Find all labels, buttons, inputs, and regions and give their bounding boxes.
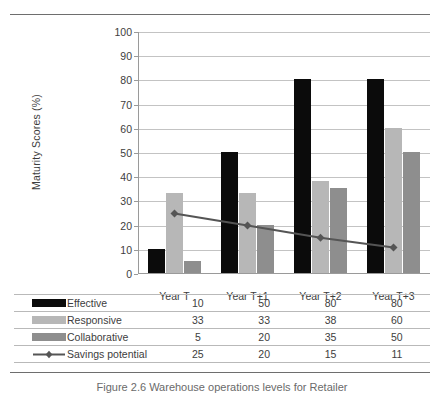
table-cell-value: 20: [231, 329, 297, 346]
table-cell-value: 11: [364, 346, 430, 363]
legend-cell: Collaborative: [14, 329, 165, 346]
line-marker-savings-potential: [244, 222, 252, 230]
legend-label: Effective: [67, 298, 107, 310]
figure-caption: Figure 2.6 Warehouse operations levels f…: [0, 381, 444, 393]
y-axis-tick-label: 0: [126, 268, 132, 280]
y-axis-tick-label: 100: [114, 26, 132, 38]
line-marker-savings-potential: [317, 234, 325, 242]
legend-cell: Responsive: [14, 312, 165, 329]
table-row: Savings potential25201511: [14, 346, 430, 363]
table-cell-value: 38: [297, 312, 363, 329]
y-axis-tick-label: 90: [120, 50, 132, 62]
y-axis-tick-label: 20: [120, 220, 132, 232]
table-cell-value: 80: [364, 295, 430, 312]
table-cell-value: 60: [364, 312, 430, 329]
table-row: Effective10508080: [14, 295, 430, 312]
figure-container: Maturity Scores (%) 01020304050607080901…: [0, 0, 444, 393]
table-cell-value: 15: [297, 346, 363, 363]
table-row: Responsive33333860: [14, 312, 430, 329]
table-cell-value: 80: [297, 295, 363, 312]
line-marker-savings-potential: [171, 210, 179, 218]
table-row: Collaborative5203550: [14, 329, 430, 346]
y-axis-title: Maturity Scores (%): [30, 62, 42, 222]
figure-bottom-rule: [10, 372, 430, 373]
plot-area: 0102030405060708090100: [138, 32, 430, 274]
table-cell-value: 10: [165, 295, 231, 312]
legend-line-marker-icon: [32, 349, 66, 358]
figure-top-rule: [10, 14, 430, 15]
y-axis-tick-label: 70: [120, 99, 132, 111]
table-cell-value: 50: [231, 295, 297, 312]
y-axis-tick-label: 50: [120, 147, 132, 159]
table-cell-value: 50: [364, 329, 430, 346]
table-cell-value: 35: [297, 329, 363, 346]
line-marker-savings-potential: [390, 243, 398, 251]
table-cell-value: 20: [231, 346, 297, 363]
table-cell-value: 33: [231, 312, 297, 329]
legend-label: Responsive: [67, 315, 122, 327]
y-axis-tick-label: 80: [120, 74, 132, 86]
table-cell-value: 25: [165, 346, 231, 363]
legend-label: Collaborative: [67, 332, 128, 344]
y-axis-tick-label: 10: [120, 244, 132, 256]
legend-cell: Savings potential: [14, 346, 165, 363]
line-path-savings-potential: [175, 214, 394, 248]
savings-potential-line: [138, 32, 430, 274]
y-axis-tick-label: 40: [120, 171, 132, 183]
y-axis-tick-mark: [134, 274, 138, 275]
y-axis-tick-label: 60: [120, 123, 132, 135]
legend-label: Savings potential: [67, 349, 147, 361]
chart-canvas: Maturity Scores (%) 01020304050607080901…: [0, 18, 444, 290]
table-cell-value: 33: [165, 312, 231, 329]
table-cell-value: 5: [165, 329, 231, 346]
y-axis-tick-label: 30: [120, 195, 132, 207]
legend-cell: Effective: [14, 295, 165, 312]
data-table: Effective10508080Responsive33333860Colla…: [14, 294, 430, 363]
legend-swatch-effective: [32, 299, 66, 307]
legend-swatch-responsive: [32, 316, 66, 324]
legend-swatch-collaborative: [32, 333, 66, 341]
